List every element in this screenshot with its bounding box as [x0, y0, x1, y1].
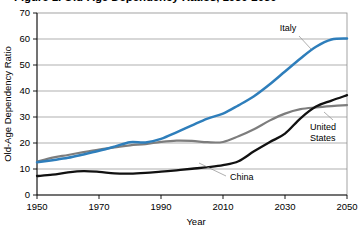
united-states-label-line1: United — [310, 122, 336, 132]
y-tick-label: 30 — [19, 111, 30, 122]
italy-leader-line — [299, 36, 311, 49]
china-label: China — [230, 172, 254, 182]
y-tick-label: 40 — [19, 85, 30, 96]
x-axis-title: Year — [186, 216, 205, 227]
italy-label: Italy — [280, 23, 297, 33]
line-chart-plot: 010203040506070 195019701990201020302050… — [0, 0, 361, 228]
series-line-italy — [37, 38, 347, 162]
x-tick-label: 1970 — [88, 201, 109, 212]
series-line-china — [37, 95, 347, 176]
x-tick-label: 2030 — [274, 201, 295, 212]
data-series-group — [37, 38, 347, 176]
y-axis-title: Old-Age Dependency Ratio — [2, 46, 13, 162]
x-tick-label-group: 195019701990201020302050 — [26, 201, 357, 212]
y-tick-label-group: 010203040506070 — [19, 7, 30, 200]
chart-figure: Figure 1. Old-Age Dependency Ratios, 195… — [0, 0, 361, 228]
y-tick-label: 50 — [19, 59, 30, 70]
x-tick-label: 2050 — [336, 201, 357, 212]
x-tick-label: 1950 — [26, 201, 47, 212]
china-annotation: China — [199, 163, 254, 182]
y-tick-label: 70 — [19, 7, 30, 18]
y-tick-label: 0 — [25, 189, 30, 200]
united-states-label-line2: States — [310, 133, 336, 143]
x-tick-label: 2010 — [212, 201, 233, 212]
x-tick-label: 1990 — [150, 201, 171, 212]
y-tick-label: 60 — [19, 33, 30, 44]
y-tick-label: 20 — [19, 137, 30, 148]
italy-annotation: Italy — [280, 23, 311, 49]
y-tick-label: 10 — [19, 163, 30, 174]
united-states-leader-line — [324, 112, 333, 120]
